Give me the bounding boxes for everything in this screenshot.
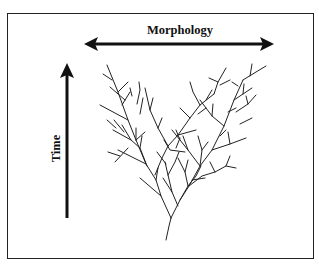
morphology-arrow-icon bbox=[84, 37, 274, 51]
time-arrow-icon bbox=[60, 63, 74, 218]
branching-tree bbox=[100, 64, 266, 240]
diagram-canvas bbox=[0, 0, 319, 268]
